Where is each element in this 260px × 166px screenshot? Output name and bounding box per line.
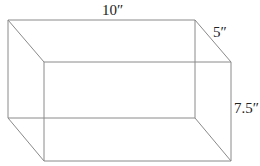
depth-label: 5″ [213, 24, 227, 40]
back-face [8, 20, 195, 118]
depth-edge-top-left [8, 20, 44, 62]
prism-diagram: 10″ 5″ 7.5″ [0, 0, 260, 166]
length-label: 10″ [102, 2, 123, 18]
depth-edges [8, 20, 231, 161]
height-label: 7.5″ [234, 100, 259, 116]
depth-edge-bottom-right [195, 118, 231, 161]
depth-edge-bottom-left [8, 118, 44, 161]
front-face [44, 62, 231, 161]
